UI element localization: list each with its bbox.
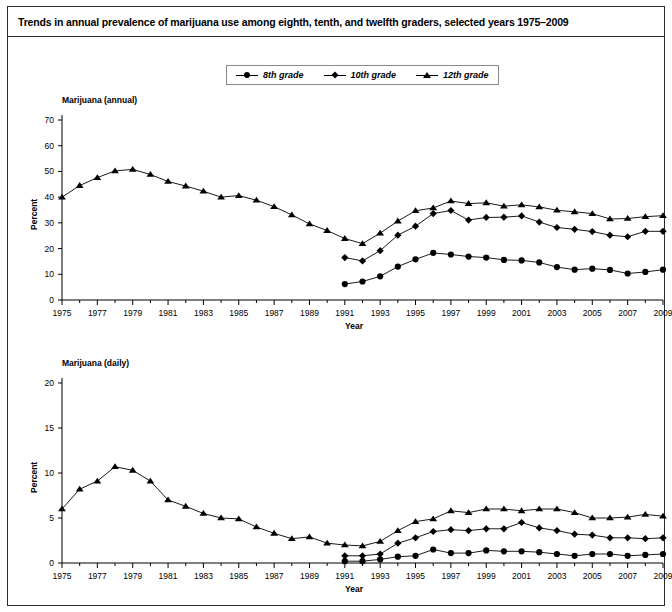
figure-title-bar: Trends in annual prevalence of marijuana… [8, 7, 664, 37]
legend-label: 8th grade [263, 70, 304, 80]
legend-item-12th-grade: 12th grade [416, 70, 489, 80]
chart-panel-annual: Marijuana (annual) Percent Year 01020304… [0, 95, 672, 340]
diamond-marker-icon [324, 71, 346, 80]
legend-item-8th-grade: 8th grade [236, 70, 304, 80]
legend-item-10th-grade: 10th grade [324, 70, 397, 80]
page-title: Trends in annual prevalence of marijuana… [8, 16, 569, 28]
circle-marker-icon [236, 71, 258, 80]
triangle-marker-icon [416, 71, 438, 80]
chart-legend: 8th grade 10th grade 12th grade [226, 65, 499, 85]
figure-container: Trends in annual prevalence of marijuana… [0, 0, 672, 612]
series-line [62, 169, 663, 243]
legend-label: 10th grade [351, 70, 397, 80]
plot-area-daily [0, 358, 672, 603]
chart-panel-daily: Marijuana (daily) Percent Year 05101520 … [0, 358, 672, 603]
plot-area-annual [0, 95, 672, 340]
legend-label: 12th grade [443, 70, 489, 80]
